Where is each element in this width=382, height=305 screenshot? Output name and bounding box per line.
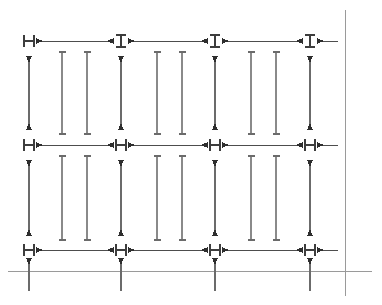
row-bottom-segment-2-arrow-end bbox=[296, 247, 303, 253]
stub-4-arrow bbox=[307, 258, 313, 265]
column-4-arrow-top-1 bbox=[307, 160, 313, 167]
row-middle bbox=[24, 139, 338, 151]
row-top-segment-0-arrow-start bbox=[36, 38, 43, 44]
row-middle-segment-2-arrow-start bbox=[222, 142, 229, 148]
stub-2-arrow bbox=[118, 258, 124, 265]
dimension-drawing-svg bbox=[0, 0, 382, 305]
column-3-arrow-bottom-1 bbox=[212, 229, 218, 236]
column-4-arrow-bottom-1 bbox=[307, 229, 313, 236]
column-2-arrow-bottom-1 bbox=[118, 229, 124, 236]
row-bottom-segment-3-arrow-start bbox=[317, 247, 324, 253]
row-top-segment-2-arrow-end bbox=[296, 38, 303, 44]
row-bottom-segment-0-arrow-start bbox=[36, 247, 43, 253]
column-2-arrow-top-1 bbox=[118, 160, 124, 167]
row-middle-segment-2-arrow-end bbox=[296, 142, 303, 148]
row-top-segment-0-arrow-end bbox=[107, 38, 114, 44]
column-3-arrow-bottom-0 bbox=[212, 123, 218, 130]
horizontal-dimension-rows bbox=[24, 35, 338, 256]
column-1-arrow-top-0 bbox=[26, 56, 32, 63]
column-1-arrow-bottom-0 bbox=[26, 123, 32, 130]
column-4-arrow-top-0 bbox=[307, 56, 313, 63]
datum-reference-lines bbox=[8, 10, 372, 296]
row-middle-segment-1-arrow-end bbox=[201, 142, 208, 148]
bottom-extension-stubs bbox=[26, 258, 313, 291]
dimension-drawing-canvas bbox=[0, 0, 382, 305]
row-middle-segment-0-arrow-end bbox=[107, 142, 114, 148]
column-1-arrow-bottom-1 bbox=[26, 229, 32, 236]
row-top-segment-1-arrow-start bbox=[128, 38, 135, 44]
row-middle-segment-1-arrow-start bbox=[128, 142, 135, 148]
interior-extension-ticks bbox=[59, 52, 280, 240]
row-top-segment-3-arrow-start bbox=[317, 38, 324, 44]
column-3-arrow-top-0 bbox=[212, 56, 218, 63]
stub-1-arrow bbox=[26, 258, 32, 265]
vertical-dimension-columns bbox=[26, 56, 313, 236]
row-bottom bbox=[24, 244, 338, 256]
row-top-segment-1-arrow-end bbox=[201, 38, 208, 44]
row-top-segment-2-arrow-start bbox=[222, 38, 229, 44]
row-top bbox=[24, 35, 338, 47]
column-2-arrow-bottom-0 bbox=[118, 123, 124, 130]
row-bottom-segment-1-arrow-start bbox=[128, 247, 135, 253]
column-3-arrow-top-1 bbox=[212, 160, 218, 167]
column-1-arrow-top-1 bbox=[26, 160, 32, 167]
row-bottom-segment-1-arrow-end bbox=[201, 247, 208, 253]
row-bottom-segment-0-arrow-end bbox=[107, 247, 114, 253]
column-2-arrow-top-0 bbox=[118, 56, 124, 63]
row-bottom-segment-2-arrow-start bbox=[222, 247, 229, 253]
column-4-arrow-bottom-0 bbox=[307, 123, 313, 130]
row-middle-segment-3-arrow-start bbox=[317, 142, 324, 148]
row-middle-segment-0-arrow-start bbox=[36, 142, 43, 148]
stub-3-arrow bbox=[212, 258, 218, 265]
